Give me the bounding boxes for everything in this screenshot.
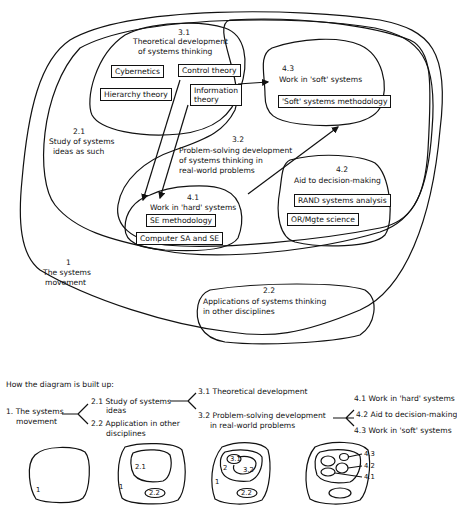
box-hierarchy-theory: Hierarchy theory (100, 88, 172, 101)
buildup-level1-line2: movement (16, 417, 57, 426)
buildup-4-3: 4.3 Work in 'soft' systems (354, 426, 452, 435)
mini3-label-2: 2 (223, 464, 227, 472)
region-2-1-number: 2.1 (73, 127, 85, 136)
region-2-1-label-line2: ideas as such (53, 147, 104, 156)
mini3-label-31: 3.1 (230, 455, 241, 463)
mini3-label-32: 3.2 (243, 466, 254, 474)
region-3-1-label-line1: Theoretical development (133, 37, 228, 46)
mini4-label-43: 4.3 (364, 450, 375, 458)
region-3-2-label-line3: real-world problems (179, 166, 255, 175)
region-4-2-label: Aid to decision-making (294, 176, 381, 185)
region-1-label-line1: The systems (43, 268, 91, 277)
box-se-methodology: SE methodology (146, 214, 216, 227)
region-4-3-label: Work in 'soft' systems (279, 75, 362, 84)
mini3-label-22: 2.2 (241, 489, 252, 497)
buildup-2-1-line2: ideas (106, 406, 126, 415)
mini-diagram-4-43 (340, 454, 349, 461)
mini4-label-42: 4.2 (364, 462, 375, 470)
mini-diagram-4-22 (329, 488, 351, 498)
mini-diagram-4-a (321, 456, 335, 466)
region-3-2-label-line2: of systems thinking in (179, 156, 263, 165)
box-cybernetics: Cybernetics (111, 65, 164, 78)
buildup-2-2-line1: 2.2 Application in other (91, 419, 180, 428)
mini2-label-22: 2.2 (149, 489, 160, 497)
box-computer-sa-se: Computer SA and SE (136, 232, 223, 245)
box-rand-systems-analysis: RAND systems analysis (294, 194, 391, 207)
box-or-mgte-science: OR/Mgte science (287, 213, 359, 226)
region-4-3-number: 4.3 (282, 64, 294, 73)
buildup-2-2-line2: disciplines (106, 429, 146, 438)
region-3-1-label-line2: of systems thinking (138, 47, 212, 56)
mini1-label-1: 1 (36, 486, 40, 494)
region-3-1-number: 3.1 (178, 28, 190, 37)
region-1-number: 1 (66, 258, 71, 267)
connector-1-to-2 (62, 404, 88, 424)
box-soft-systems-methodology: 'Soft' systems methodology (278, 95, 391, 108)
box-information-theory-line1: Information (194, 86, 238, 95)
region-2-2-label-line2: in other disciplines (203, 307, 275, 316)
mini2-label-21: 2.1 (135, 463, 146, 471)
buildup-2-1-line1: 2.1 Study of systems (91, 397, 171, 406)
box-information-theory: Information theory (190, 84, 242, 106)
mini-diagram-4-42 (336, 463, 348, 473)
region-3-2-label-line1: Problem-solving development (179, 146, 292, 155)
buildup-heading: How the diagram is built up: (6, 380, 114, 389)
region-4-1-label: Work in 'hard' systems (150, 203, 236, 212)
region-4-2-number: 4.2 (336, 165, 348, 174)
mini-diagram-1 (29, 447, 89, 502)
mini-diagram-4-inner (315, 450, 360, 483)
buildup-3-2-line2: in real-world problems (210, 421, 295, 430)
buildup-4-1: 4.1 Work in 'hard' systems (354, 394, 455, 403)
buildup-level1-line1: 1. The systems (6, 407, 64, 416)
region-2-1-label-line1: Study of systems (49, 137, 114, 146)
mini4-label-41: 4.1 (364, 473, 375, 481)
connector-3-to-4 (333, 410, 354, 426)
connector-2-to-3 (170, 393, 196, 409)
box-information-theory-line2: theory (194, 95, 238, 104)
mini3-label-1: 1 (215, 478, 219, 486)
region-3-2-number: 3.2 (232, 135, 244, 144)
region-4-1-number: 4.1 (187, 193, 199, 202)
mini2-label-1: 1 (119, 483, 123, 491)
region-1-label-line2: movement (45, 278, 86, 287)
box-control-theory: Control theory (178, 64, 241, 77)
mini-diagram-4-41 (321, 468, 335, 476)
region-2-2-number: 2.2 (263, 286, 275, 295)
buildup-3-2-line1: 3.2 Problem-solving development (198, 411, 326, 420)
buildup-3-1-line1: 3.1 Theoretical development (198, 387, 307, 396)
buildup-4-2: 4.2 Aid to decision-making (356, 410, 457, 419)
region-2-2-label-line1: Applications of systems thinking (203, 297, 326, 306)
